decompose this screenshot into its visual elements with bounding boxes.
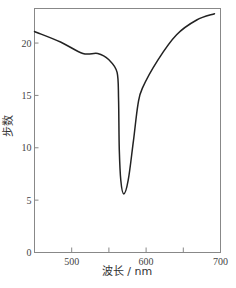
plot-frame <box>35 9 221 253</box>
data-line <box>35 14 215 194</box>
x-axis-label: 波长 / nm <box>102 265 152 278</box>
y-tick-label: 15 <box>22 90 32 101</box>
y-tick-label: 10 <box>22 142 32 153</box>
x-axis-ticks: 500600700 <box>64 248 228 267</box>
y-tick-label: 0 <box>27 247 32 258</box>
y-tick-label: 20 <box>22 38 32 49</box>
y-axis-ticks: 05101520 <box>22 38 39 258</box>
y-axis-label: 步数 <box>2 115 15 137</box>
line-chart: 05101520 500600700 波长 / nm 步数 <box>0 0 236 288</box>
x-tick-label: 500 <box>64 256 79 267</box>
x-tick-label: 700 <box>213 256 228 267</box>
y-tick-label: 5 <box>27 195 32 206</box>
